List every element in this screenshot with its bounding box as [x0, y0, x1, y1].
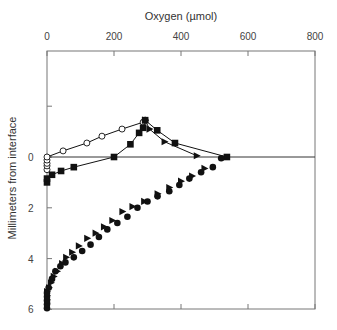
filled-circle-marker	[210, 164, 217, 171]
open-circle-marker	[44, 154, 50, 160]
filled-square-marker	[140, 124, 147, 131]
filled-circle-marker	[71, 254, 78, 261]
filled-circle-marker	[144, 198, 151, 205]
filled-circle-marker	[52, 268, 59, 275]
filled-square-marker	[49, 171, 56, 178]
filled-triangle-marker	[162, 138, 169, 145]
series-line	[145, 120, 197, 156]
filled-circle-marker	[154, 193, 161, 200]
open-circle-marker	[99, 133, 105, 139]
filled-square-marker	[127, 141, 134, 148]
filled-triangle-marker	[84, 235, 91, 242]
filled-circle-marker	[87, 241, 94, 248]
filled-circle-marker	[218, 155, 225, 162]
filled-circle-marker	[166, 188, 173, 195]
filled-circle-marker	[124, 213, 131, 220]
filled-square-marker	[154, 127, 161, 134]
filled-triangle-marker	[194, 152, 201, 159]
open-circle-marker	[60, 148, 66, 154]
filled-circle-marker	[79, 248, 86, 255]
filled-circle-marker	[114, 220, 121, 227]
oxygen-depth-chart: Oxygen (µmol) Millimeters from interface…	[0, 0, 337, 330]
filled-circle-marker	[62, 259, 69, 266]
filled-square-marker	[224, 154, 231, 161]
filled-circle-marker	[134, 205, 141, 212]
filled-circle-marker	[96, 234, 103, 241]
filled-circle-marker	[45, 285, 52, 292]
filled-circle-marker	[186, 175, 193, 182]
filled-square-marker	[71, 164, 78, 171]
filled-circle-marker	[198, 169, 205, 176]
filled-circle-marker	[176, 182, 183, 189]
filled-square-marker	[111, 154, 118, 161]
filled-circle-marker	[104, 226, 111, 233]
open-circle-marker	[119, 126, 125, 132]
open-circle-marker	[84, 140, 90, 146]
filled-circle-marker	[49, 276, 56, 283]
filled-square-marker	[58, 168, 65, 175]
plot-area	[0, 0, 337, 330]
